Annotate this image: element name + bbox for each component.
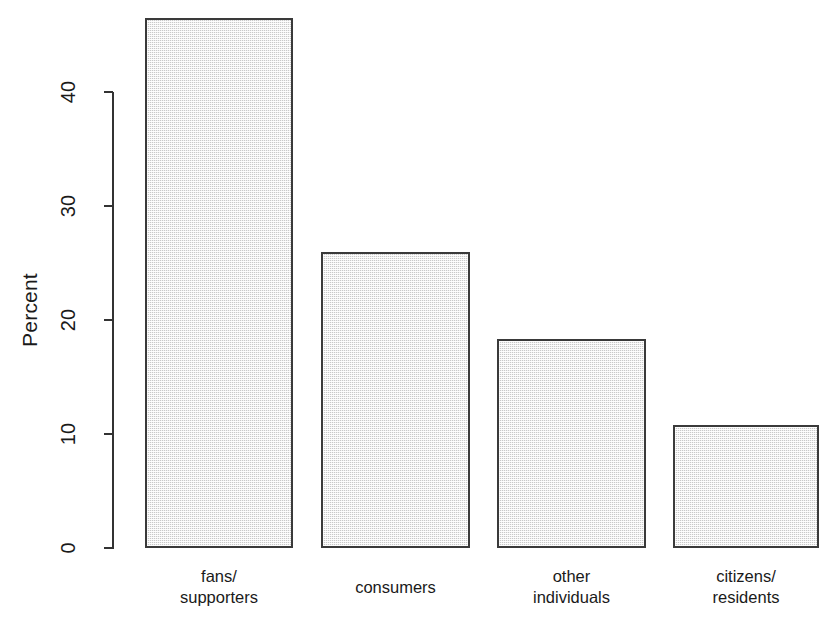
bar [321, 252, 470, 548]
x-axis-category-label: other individuals [482, 566, 662, 608]
bar [145, 18, 293, 548]
y-axis-tick-mark [104, 319, 113, 321]
y-axis-tick: 10 [46, 433, 113, 435]
y-axis-tick-label: 10 [58, 412, 78, 456]
y-axis-tick-mark [104, 547, 113, 549]
y-axis-tick: 40 [46, 91, 113, 93]
y-axis-tick-mark [104, 433, 113, 435]
y-axis-tick-mark [104, 205, 113, 207]
y-axis-tick-label: 30 [58, 184, 78, 228]
y-axis-tick-mark [104, 91, 113, 93]
bar [673, 425, 819, 548]
y-axis-tick: 20 [46, 319, 113, 321]
y-axis-tick: 30 [46, 205, 113, 207]
y-axis-tick: 0 [46, 547, 113, 549]
y-axis-tick-label: 40 [58, 70, 78, 114]
bar-chart: Percent 010203040 fans/ supportersconsum… [0, 0, 838, 625]
x-axis-category-label: fans/ supporters [129, 566, 309, 608]
bar [497, 339, 646, 548]
y-axis-tick-label: 0 [58, 526, 78, 570]
y-axis-tick-label: 20 [58, 298, 78, 342]
y-axis-title: Percent [10, 240, 50, 380]
x-axis-category-label: citizens/ residents [656, 566, 836, 608]
x-axis-category-label: consumers [306, 577, 486, 598]
